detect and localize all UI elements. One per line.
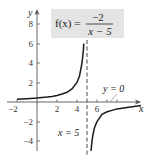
y-tick-label: 4 bbox=[29, 58, 34, 68]
x-axis-label: x bbox=[138, 103, 144, 114]
y-tick-label: 8 bbox=[29, 19, 34, 29]
y-tick-label: 2 bbox=[29, 78, 34, 88]
y-tick-label: 6 bbox=[29, 39, 34, 49]
y-tick-label: −4 bbox=[23, 136, 33, 146]
vertical-asymptote-label: x = 5 bbox=[57, 127, 79, 138]
y-axis-label: y bbox=[27, 7, 33, 18]
x-tick-label: −2 bbox=[8, 104, 18, 114]
y-tick-label: −2 bbox=[23, 117, 33, 127]
x-tick-label: 4 bbox=[75, 104, 80, 114]
horizontal-asymptote-label: y = 0 bbox=[102, 83, 124, 94]
leader-line bbox=[110, 94, 117, 102]
x-tick-label: 2 bbox=[55, 104, 60, 114]
formula-denominator: x − 5 bbox=[87, 25, 112, 37]
function-graph: f(x) = −2 x − 5 x y −2 2 4 6 8 6 4 2 −2 … bbox=[0, 0, 154, 157]
formula-numerator: −2 bbox=[92, 11, 104, 23]
formula-lhs: f(x) = bbox=[55, 17, 80, 30]
curve-left-branch bbox=[17, 44, 84, 100]
x-tick-label: 6 bbox=[95, 104, 100, 114]
